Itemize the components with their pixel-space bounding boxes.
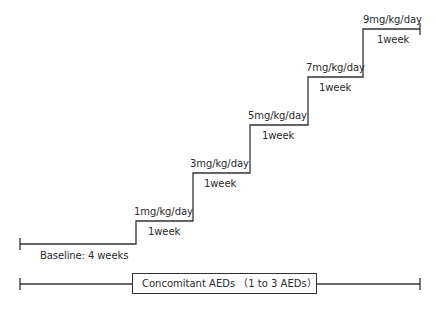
step-3-duration: 1week [262,130,294,141]
step-2-dose: 3mg/kg/day [190,158,249,169]
step-5-duration: 1week [377,34,409,45]
concomitant-aeds-box: Concomitant AEDs （1 to 3 AEDs） [132,273,317,294]
step-5-dose: 9mg/kg/day [363,14,422,25]
baseline-label: Baseline: 4 weeks [40,250,128,261]
step-4-duration: 1week [319,82,351,93]
step-1-dose: 1mg/kg/day [134,206,193,217]
step-2-duration: 1week [204,178,236,189]
step-4-dose: 7mg/kg/day [306,62,365,73]
step-3-dose: 5mg/kg/day [248,110,307,121]
timeline-lines [0,0,436,309]
step-1-duration: 1week [148,226,180,237]
